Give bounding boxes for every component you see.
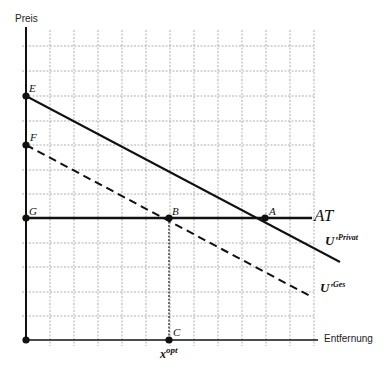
x-axis-label: Entfernung	[324, 333, 373, 344]
label-g: G	[29, 205, 37, 217]
point-f	[22, 141, 29, 148]
point-c	[165, 336, 172, 343]
label-f: F	[30, 131, 37, 143]
label-a: A	[269, 205, 276, 217]
label-at: AT	[314, 206, 333, 226]
label-e: E	[29, 82, 36, 94]
label-u-ges: U'Ges	[320, 280, 345, 296]
label-b: B	[172, 205, 179, 217]
y-axis-label: Preis	[15, 13, 38, 24]
grid	[22, 30, 314, 346]
diagram-canvas	[0, 0, 385, 371]
point-a	[261, 214, 268, 221]
label-x-opt: xopt	[160, 345, 178, 362]
label-c: C	[173, 326, 180, 338]
point-origin	[22, 336, 29, 343]
label-u-privat: U'Privat	[325, 233, 358, 249]
